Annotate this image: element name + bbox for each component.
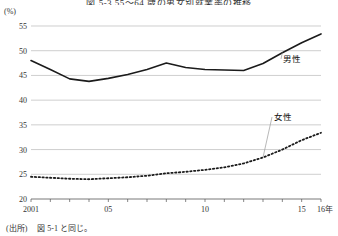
series-annotations: 男性女性 — [263, 53, 301, 158]
series-line-male — [31, 34, 321, 81]
source-note: (出所) 図 5-1 と同じ。 — [6, 222, 92, 233]
y-axis-tick-labels: 2025303540455055 — [19, 22, 27, 204]
y-tick-55: 55 — [19, 22, 27, 31]
y-tick-35: 35 — [19, 121, 27, 130]
x-tick-15: 15 — [298, 205, 306, 214]
series-label-female: 女性 — [274, 112, 292, 122]
series-label-male: 男性 — [283, 54, 301, 64]
y-tick-50: 50 — [19, 47, 27, 56]
series-line-female — [31, 133, 321, 179]
series-lines — [31, 34, 321, 179]
y-tick-25: 25 — [19, 170, 27, 179]
y-tick-45: 45 — [19, 71, 27, 80]
source-text: 図 5-1 と同じ。 — [37, 224, 92, 233]
x-tick-16年: 16年 — [317, 204, 333, 214]
figure-root: 図 5-3 55～64 歳の男女別就業率の推移 (%) 202530354045… — [0, 0, 338, 236]
x-axis-tick-labels: 200105101516年 — [23, 204, 333, 214]
chart-canvas: 2025303540455055 200105101516年 男性女性 — [0, 0, 338, 236]
x-tick-10: 10 — [201, 205, 209, 214]
y-tick-20: 20 — [19, 195, 27, 204]
source-prefix: (出所) — [6, 224, 27, 233]
x-axis — [31, 199, 321, 202]
x-tick-2001: 2001 — [23, 205, 39, 214]
y-tick-30: 30 — [19, 146, 27, 155]
y-tick-40: 40 — [19, 96, 27, 105]
x-tick-05: 05 — [104, 205, 112, 214]
